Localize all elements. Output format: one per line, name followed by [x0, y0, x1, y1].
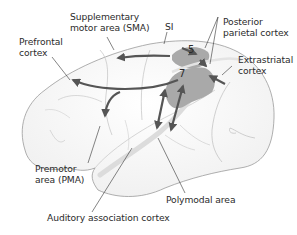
label-sma-line1: Supplementary: [70, 12, 150, 23]
label-ppc-line1: Posterior: [223, 17, 289, 28]
label-sma: Supplementary motor area (SMA): [70, 12, 150, 33]
label-auditory: Auditory association cortex: [47, 213, 170, 224]
label-extrastriatal-line1: Extrastriatal: [238, 55, 293, 66]
label-extrastriatal: Extrastriatal cortex: [238, 55, 293, 76]
label-premotor: Premotor area (PMA): [35, 164, 84, 185]
label-premotor-line1: Premotor: [35, 164, 84, 175]
brain-diagram: Supplementary motor area (SMA) SI Prefro…: [0, 0, 297, 235]
area-7-number: 7: [179, 68, 185, 79]
label-posterior-parietal: Posterior parietal cortex: [223, 17, 289, 38]
area-5-number: 5: [188, 44, 194, 55]
label-prefrontal: Prefrontal cortex: [19, 37, 63, 58]
label-si: SI: [165, 22, 173, 33]
label-prefrontal-line2: cortex: [19, 48, 63, 59]
label-premotor-line2: area (PMA): [35, 175, 84, 186]
label-prefrontal-line1: Prefrontal: [19, 37, 63, 48]
label-sma-line2: motor area (SMA): [70, 23, 150, 34]
label-extrastriatal-line2: cortex: [238, 66, 293, 77]
label-polymodal: Polymodal area: [166, 195, 235, 206]
label-ppc-line2: parietal cortex: [223, 28, 289, 39]
